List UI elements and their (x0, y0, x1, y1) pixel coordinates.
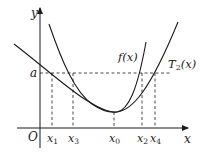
tick-x4: x4 (150, 132, 161, 146)
tick-x3: x3 (68, 132, 79, 146)
y-axis-label: y (30, 6, 38, 20)
x-axis-label: x (184, 132, 191, 146)
curve-T2-label: T2(x) (168, 57, 196, 72)
dashed-guides (40, 73, 170, 128)
origin-label: O (28, 130, 38, 144)
curve-f (49, 24, 146, 112)
x-tick-labels: x1 x3 x0 x2 x4 (47, 132, 161, 146)
function-diagram: y x O a f(x) T2(x) x1 x3 x0 x2 x4 (0, 0, 202, 153)
curve-T2 (14, 22, 178, 112)
curve-f-label: f(x) (117, 50, 138, 64)
level-a-label: a (30, 66, 37, 80)
tick-x0: x0 (109, 132, 120, 146)
tick-x2: x2 (137, 132, 148, 146)
tick-x1: x1 (47, 132, 58, 146)
